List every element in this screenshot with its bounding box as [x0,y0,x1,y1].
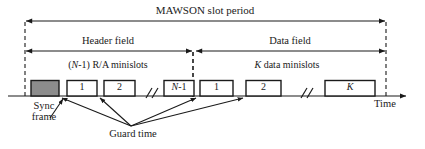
ra-minislots-suffix: -1) R/A minislots [78,59,147,70]
span-arrows [26,21,385,51]
data-minislots-label: K data minislots [254,60,319,71]
guard-time-caption: Guard time [109,128,157,139]
time-axis-label: Time [374,98,396,109]
header-field-label: Header field [82,35,134,46]
slot-ra-n-minus-1-text: N-1 [171,82,186,93]
slot-n-symbol: N [171,81,178,92]
diagram-canvas [0,0,425,149]
sync-frame-caption: Sync frame [32,100,56,122]
guard-arrow-sync [62,98,131,126]
mawson-slot-period-label: MAWSON slot period [156,5,255,17]
slot-ra-2-text: 2 [117,82,122,93]
sync-frame-caption-line2: frame [32,111,56,122]
slot-data-k-text: K [347,82,354,93]
slot-n-suffix: -1 [178,81,186,92]
slot-sync-frame [31,81,59,97]
data-field-label: Data field [269,35,311,46]
ra-minislots-label: (N-1) R/A minislots [68,60,147,71]
slot-data-2-text: 2 [261,82,266,93]
sync-frame-caption-line1: Sync [32,100,56,111]
guard-time-arrows [62,98,243,126]
data-minislots-k-symbol: K [254,59,261,70]
guard-arrow-ra1 [100,98,131,126]
ra-minislots-n-symbol: N [72,59,79,70]
mawson-slot-period-diagram: MAWSON slot period Header field Data fie… [0,0,425,149]
slot-ra-1-text: 1 [80,82,85,93]
data-minislots-suffix: data minislots [261,59,319,70]
slot-data-1-text: 1 [214,82,219,93]
